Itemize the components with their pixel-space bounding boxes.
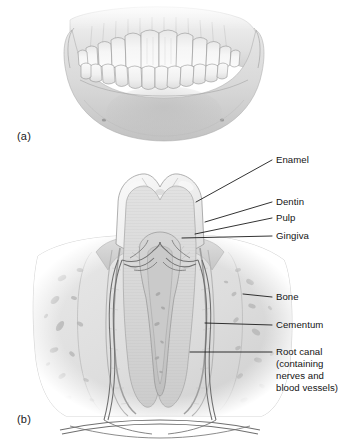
panel-a-anterior-jaw-view xyxy=(0,0,345,150)
label-gingiva: Gingiva xyxy=(276,230,309,242)
label-cementum: Cementum xyxy=(276,319,323,331)
label-root-canal-line-2: (containing xyxy=(276,358,323,370)
left-mental-foramen xyxy=(102,119,106,122)
label-root-canal-line-4: blood vessels) xyxy=(276,382,338,394)
top-fade xyxy=(0,0,345,30)
label-root-canal-line-1: Root canal xyxy=(276,346,322,358)
label-root-canal-line-3: nerves and xyxy=(276,370,324,382)
figure-page: (a) xyxy=(0,0,345,444)
anterior-jaw-illustration xyxy=(0,0,345,150)
chin-shading xyxy=(106,86,222,138)
panel-b-letter: (b) xyxy=(17,413,31,425)
label-bone: Bone xyxy=(276,291,299,303)
label-pulp: Pulp xyxy=(276,212,295,224)
label-enamel: Enamel xyxy=(276,154,309,166)
panel-a-letter: (a) xyxy=(17,130,31,142)
label-dentin: Dentin xyxy=(276,196,304,208)
